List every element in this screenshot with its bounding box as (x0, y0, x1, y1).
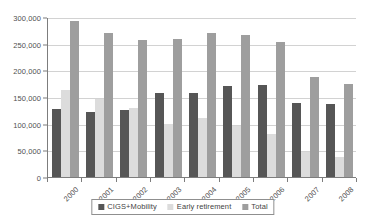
bar-group (254, 18, 288, 177)
bar[interactable] (70, 21, 79, 177)
legend-item[interactable]: Early retirement (168, 202, 232, 211)
bar[interactable] (61, 90, 70, 177)
x-axis-tick-mark (356, 178, 357, 182)
x-axis-tick-mark (81, 178, 82, 182)
x-axis-tick-mark (322, 178, 323, 182)
bar[interactable] (301, 152, 310, 177)
x-axis-tick-mark (287, 178, 288, 182)
bar-group (48, 18, 82, 177)
bar[interactable] (164, 124, 173, 177)
legend-item[interactable]: CIGS+Mobility (98, 202, 156, 211)
legend-swatch-icon (98, 204, 104, 210)
bar[interactable] (120, 110, 129, 177)
bar[interactable] (258, 85, 267, 177)
bar-group (220, 18, 254, 177)
x-axis-tick-mark (184, 178, 185, 182)
bar[interactable] (223, 86, 232, 177)
x-axis-tick-mark (219, 178, 220, 182)
bar-chart: 050,000100,000150,000200,000250,000300,0… (0, 0, 366, 224)
bar[interactable] (207, 33, 216, 177)
bar[interactable] (335, 157, 344, 177)
y-axis-tick-label: 300,000 (13, 14, 41, 23)
y-axis-tick-label: 0 (37, 174, 41, 183)
x-axis-tick-mark (47, 178, 48, 182)
y-axis-tick-label: 250,000 (13, 40, 41, 49)
bar[interactable] (198, 118, 207, 177)
bar-group (151, 18, 185, 177)
x-axis-tick-label: 2000 (62, 185, 80, 203)
bar-group (185, 18, 219, 177)
y-axis-tick-label: 100,000 (13, 120, 41, 129)
y-axis-tick-label: 150,000 (13, 94, 41, 103)
x-axis-tick-label: 2007 (302, 185, 320, 203)
x-axis-tick-mark (253, 178, 254, 182)
bar[interactable] (310, 77, 319, 177)
bar[interactable] (173, 39, 182, 177)
x-axis-tick-mark (150, 178, 151, 182)
legend-swatch-icon (168, 204, 174, 210)
bars-layer (48, 18, 356, 177)
bar[interactable] (95, 99, 104, 177)
legend-label: CIGS+Mobility (107, 202, 156, 211)
y-axis-tick-label: 50,000 (17, 147, 41, 156)
bar-group (82, 18, 116, 177)
bar[interactable] (52, 109, 61, 177)
bar[interactable] (276, 42, 285, 177)
x-axis-tick-mark (116, 178, 117, 182)
y-axis: 050,000100,000150,000200,000250,000300,0… (0, 18, 47, 179)
legend-item[interactable]: Total (242, 202, 267, 211)
y-axis-tick-label: 200,000 (13, 67, 41, 76)
bar[interactable] (344, 84, 353, 177)
legend-label: Total (251, 202, 267, 211)
bar-group (288, 18, 322, 177)
bar[interactable] (129, 108, 138, 177)
bar[interactable] (155, 93, 164, 177)
bar[interactable] (232, 126, 241, 177)
legend-label: Early retirement (177, 202, 232, 211)
plot-area (47, 18, 356, 178)
bar[interactable] (292, 103, 301, 177)
bar-group (323, 18, 357, 177)
legend-swatch-icon (242, 204, 248, 210)
bar[interactable] (138, 40, 147, 177)
bar[interactable] (267, 134, 276, 177)
bar-group (117, 18, 151, 177)
bar[interactable] (86, 112, 95, 177)
chart-legend: CIGS+MobilityEarly retirementTotal (91, 199, 274, 215)
bar[interactable] (326, 104, 335, 177)
bar[interactable] (241, 35, 250, 177)
x-axis-tick-label: 2008 (337, 185, 355, 203)
bar[interactable] (104, 33, 113, 177)
bar[interactable] (189, 93, 198, 177)
